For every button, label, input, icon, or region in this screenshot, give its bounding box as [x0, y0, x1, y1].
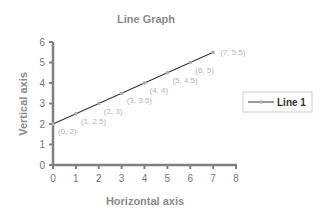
y-tick-label: 5: [39, 57, 45, 68]
x-axis-label: Horizontal axis: [106, 195, 184, 207]
data-point-label: (4, 4): [150, 86, 169, 95]
data-point-label: (3, 3.5): [127, 96, 153, 105]
legend-marker-icon: [259, 100, 263, 104]
series-line-1: (0, 2)(1, 2.5)(2, 3)(3, 3.5)(4, 4)(5, 4.…: [51, 48, 246, 136]
y-tick-label: 6: [39, 37, 45, 48]
axes: [49, 42, 237, 169]
tick-labels: 0123456012345678: [39, 37, 239, 185]
data-point-marker: [143, 81, 147, 85]
x-tick-label: 7: [210, 173, 216, 184]
y-tick-label: 3: [39, 98, 45, 109]
chart-title: Line Graph: [117, 13, 175, 25]
y-tick-label: 2: [39, 119, 45, 130]
data-point-marker: [166, 71, 170, 75]
legend: Line 1: [243, 92, 312, 112]
data-point-marker: [120, 91, 124, 95]
data-point-marker: [97, 102, 101, 106]
y-tick-label: 1: [39, 139, 45, 150]
data-point-label: (6, 5): [195, 66, 214, 75]
y-tick-label: 0: [39, 160, 45, 171]
data-point-marker: [74, 112, 78, 116]
x-tick-label: 3: [119, 173, 125, 184]
data-point-label: (0, 2): [58, 127, 77, 136]
data-point-label: (7, 5.5): [220, 48, 246, 57]
legend-label: Line 1: [277, 97, 306, 108]
x-tick-label: 4: [142, 173, 148, 184]
x-tick-label: 6: [187, 173, 193, 184]
line-chart: Line Graph 0123456012345678 (0, 2)(1, 2.…: [0, 0, 331, 213]
y-tick-label: 4: [39, 78, 45, 89]
x-tick-label: 8: [233, 173, 239, 184]
x-tick-label: 0: [50, 173, 56, 184]
data-point-marker: [211, 50, 215, 54]
data-point-label: (5, 4.5): [172, 76, 198, 85]
data-point-marker: [188, 61, 192, 65]
x-tick-label: 5: [165, 173, 171, 184]
data-point-label: (1, 2.5): [81, 117, 107, 126]
y-axis-label: Vertical axis: [17, 72, 29, 136]
data-point-label: (2, 3): [104, 107, 123, 116]
data-point-marker: [51, 122, 55, 126]
x-tick-label: 2: [96, 173, 102, 184]
x-tick-label: 1: [73, 173, 79, 184]
